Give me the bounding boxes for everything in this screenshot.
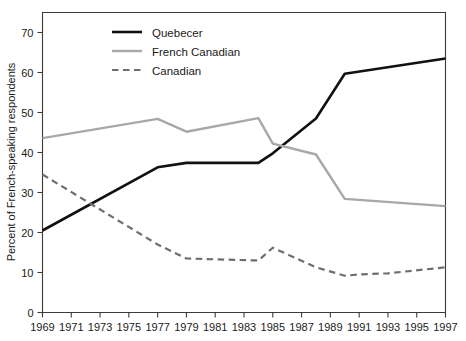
x-tick-label: 1997: [433, 321, 457, 333]
x-tick-label: 1987: [289, 321, 313, 333]
series-line-quebecer: [43, 59, 446, 231]
x-tick-label: 1981: [203, 321, 227, 333]
chart-figure: 010203040506070 196919711973197519771979…: [0, 0, 466, 341]
series-line-canadian: [43, 175, 446, 276]
x-tick-label: 1979: [174, 321, 198, 333]
y-axis-ticks: 010203040506070: [21, 27, 42, 319]
x-tick-label: 1995: [404, 321, 428, 333]
y-axis-title-text: Percent of French-speaking respondents: [5, 62, 17, 261]
y-tick-label: 20: [21, 227, 33, 239]
data-series-group: [43, 59, 446, 276]
y-axis-title: Percent of French-speaking respondents: [5, 62, 17, 261]
x-tick-label: 1973: [88, 321, 112, 333]
x-tick-label: 1975: [117, 321, 141, 333]
chart-legend: QuebecerFrench CanadianCanadian: [112, 27, 240, 77]
x-tick-label: 1969: [30, 321, 54, 333]
y-tick-label: 60: [21, 67, 33, 79]
y-tick-label: 0: [27, 307, 33, 319]
x-tick-label: 1993: [376, 321, 400, 333]
y-tick-label: 30: [21, 187, 33, 199]
y-tick-label: 10: [21, 267, 33, 279]
x-tick-label: 1991: [347, 321, 371, 333]
legend-label: French Canadian: [152, 46, 240, 58]
legend-label: Canadian: [152, 65, 201, 77]
line-chart: 010203040506070 196919711973197519771979…: [0, 0, 466, 341]
legend-label: Quebecer: [152, 27, 203, 39]
y-tick-label: 70: [21, 27, 33, 39]
x-axis-ticks: 1969197119731975197719791981198319851987…: [30, 313, 457, 333]
x-tick-label: 1985: [261, 321, 285, 333]
x-tick-label: 1977: [145, 321, 169, 333]
y-tick-label: 50: [21, 107, 33, 119]
x-tick-label: 1971: [59, 321, 83, 333]
x-tick-label: 1989: [318, 321, 342, 333]
y-tick-label: 40: [21, 147, 33, 159]
x-tick-label: 1983: [232, 321, 256, 333]
